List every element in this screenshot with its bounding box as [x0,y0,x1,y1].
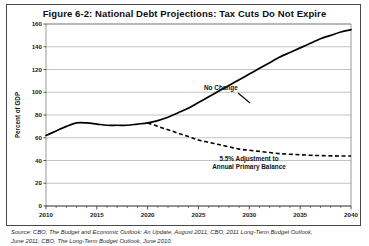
source-note-line-2: June 2011; CBO, The Long-Term Budget Out… [11,237,359,246]
x-tick-label-2035: 2035 [293,211,307,218]
source-note-line-1: Source: CBO, The Budget and Economic Out… [11,228,359,237]
chart-annotations: No Change5.5% Adjustment toAnnual Primar… [204,84,286,171]
y-axis-title-label: Percent of GDP [14,92,21,138]
x-tick-label-2025: 2025 [192,211,206,218]
x-tick-label-2010: 2010 [39,211,53,218]
x-axis-ticks: 2010201520202025203020352040 [39,206,358,218]
y-tick-label-120: 120 [32,66,43,73]
annotation-no-change: No Change [204,84,238,92]
y-tick-label-80: 80 [35,111,42,118]
series-line-no-change [46,30,351,136]
y-tick-label-140: 140 [32,43,43,50]
x-tick-label-2040: 2040 [344,211,358,218]
y-axis-ticks: 020406080100120140160 [32,20,46,209]
x-tick-label-2015: 2015 [90,211,104,218]
gridlines [46,24,351,183]
y-tick-label-100: 100 [32,88,43,95]
annotation-adjustment-line-2: Annual Primary Balance [212,163,286,171]
chart-canvas: 020406080100120140160 201020152020202520… [6,4,363,244]
series-line-adjustment [148,123,351,156]
y-tick-label-20: 20 [35,179,42,186]
annotation-no-change-leader [238,93,250,103]
y-tick-label-60: 60 [35,134,42,141]
y-tick-label-0: 0 [39,202,43,209]
national-debt-projection-chart: 020406080100120140160 201020152020202520… [6,4,363,244]
annotation-adjustment-line-1: 5.5% Adjustment to [219,155,278,163]
data-series [46,30,351,156]
x-tick-label-2030: 2030 [242,211,256,218]
y-tick-label-160: 160 [32,20,43,27]
y-tick-label-40: 40 [35,157,42,164]
source-note: Source: CBO, The Budget and Economic Out… [11,228,359,245]
y-axis-title: Percent of GDP [14,92,21,138]
x-tick-label-2020: 2020 [141,211,155,218]
